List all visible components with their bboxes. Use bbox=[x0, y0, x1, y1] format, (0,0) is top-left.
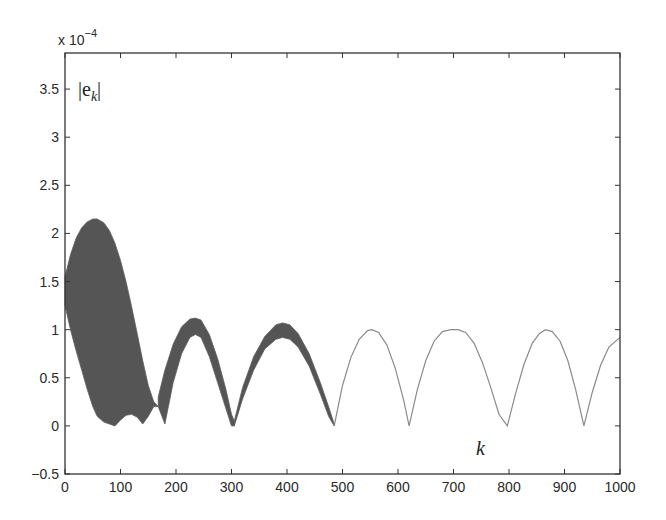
x-tick-label: 200 bbox=[164, 479, 188, 495]
x-tick-label: 400 bbox=[275, 479, 299, 495]
y-multiplier-label: x 10−4 bbox=[58, 27, 97, 48]
x-tick-label: 300 bbox=[220, 479, 244, 495]
y-tick-label: 0 bbox=[51, 418, 59, 434]
y-tick-label: 3 bbox=[51, 129, 59, 145]
x-axis-ticks: 01002003004005006007008009001000 bbox=[61, 53, 636, 495]
y-axis-label: |ek| bbox=[78, 78, 101, 104]
x-tick-label: 800 bbox=[497, 479, 521, 495]
y-tick-label: 1 bbox=[51, 322, 59, 338]
band-segment bbox=[234, 323, 334, 426]
x-tick-label: 900 bbox=[553, 479, 577, 495]
x-axis-label: k bbox=[476, 437, 486, 459]
y-tick-label: −0.5 bbox=[31, 466, 59, 482]
band-segment bbox=[65, 219, 158, 426]
x-tick-label: 600 bbox=[386, 479, 410, 495]
y-tick-label: 2.5 bbox=[40, 177, 60, 193]
error-curve-line bbox=[334, 330, 620, 426]
y-tick-label: 3.5 bbox=[40, 81, 60, 97]
x-tick-label: 500 bbox=[331, 479, 355, 495]
x-tick-label: 0 bbox=[61, 479, 69, 495]
x-tick-label: 1000 bbox=[604, 479, 635, 495]
x-tick-label: 100 bbox=[109, 479, 133, 495]
line-chart: 01002003004005006007008009001000 −0.500.… bbox=[0, 0, 666, 520]
y-tick-label: 1.5 bbox=[40, 274, 60, 290]
band-segment bbox=[158, 318, 234, 426]
x-tick-label: 700 bbox=[442, 479, 466, 495]
y-tick-label: 2 bbox=[51, 225, 59, 241]
oscillation-band-area bbox=[65, 219, 334, 426]
y-tick-label: 0.5 bbox=[40, 370, 60, 386]
